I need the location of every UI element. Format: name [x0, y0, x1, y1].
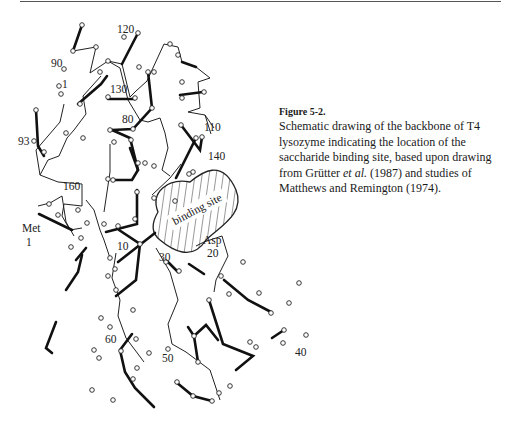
figure-label: Figure 5-2.	[279, 106, 504, 117]
residue-label: 30	[159, 251, 171, 263]
residue-label: 93	[18, 135, 30, 147]
residue-label: 130	[110, 83, 128, 95]
residue-label: 10	[117, 240, 129, 252]
residue-label: Asp	[203, 234, 222, 247]
residue-label: 160	[63, 180, 81, 192]
residue-label: 40	[295, 346, 307, 358]
residue-label: 1	[26, 236, 32, 248]
residue-label: 90	[51, 57, 63, 69]
caption-text-italic: et al.	[343, 166, 367, 180]
residue-label: 50	[162, 352, 174, 364]
lysozyme-backbone-diagram: binding site	[0, 0, 508, 427]
residue-label: 110	[204, 121, 221, 133]
residue-label: 120	[117, 23, 135, 35]
residue-label: 20	[207, 247, 219, 259]
residue-label: 1	[62, 78, 68, 90]
residue-label: 140	[208, 150, 226, 162]
residue-label: 60	[105, 333, 117, 345]
residue-label: 80	[122, 113, 134, 125]
residue-label: Met	[22, 222, 41, 234]
caption-text: Schematic drawing of the backbone of T4 …	[279, 119, 504, 197]
figure-caption: Figure 5-2. Schematic drawing of the bac…	[279, 106, 504, 197]
